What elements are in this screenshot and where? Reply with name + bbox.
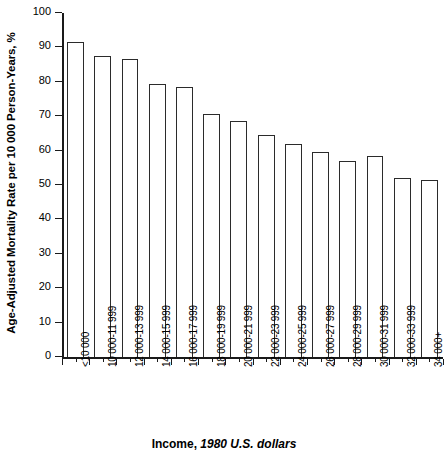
y-axis-tick: 100	[55, 12, 62, 13]
y-axis-tick: 0	[55, 356, 62, 357]
y-axis-tick-label: 90	[39, 39, 51, 51]
x-axis-category-label: 32 000-33 999	[406, 305, 417, 367]
x-axis-minor-tick	[293, 359, 294, 362]
x-axis-tick	[62, 359, 63, 365]
x-axis-minor-tick	[321, 359, 322, 362]
x-axis-category-label: 10 000-11 999	[107, 306, 118, 367]
y-axis-tick-label: 50	[39, 177, 51, 189]
x-axis-category-label: 16 000-17 999	[188, 305, 199, 367]
x-axis-category-label: 28 000-29 999	[352, 305, 363, 367]
x-axis-minor-tick	[103, 359, 104, 362]
y-axis-tick: 30	[55, 253, 62, 254]
y-axis-line	[62, 13, 64, 357]
y-axis-tick: 10	[55, 322, 62, 323]
x-axis-minor-tick	[348, 359, 349, 362]
y-axis-title-container: Age-Adjusted Mortality Rate per 10 000 P…	[0, 0, 22, 366]
y-axis-tick-label: 80	[39, 74, 51, 86]
y-axis-title: Age-Adjusted Mortality Rate per 10 000 P…	[5, 32, 17, 333]
y-axis-tick-label: 60	[39, 143, 51, 155]
y-axis-tick: 50	[55, 184, 62, 185]
x-axis-minor-tick	[184, 359, 185, 362]
x-axis-minor-tick	[429, 359, 430, 362]
x-axis-minor-tick	[157, 359, 158, 362]
bar	[421, 180, 438, 357]
y-axis-tick: 20	[55, 287, 62, 288]
y-axis-tick: 60	[55, 150, 62, 151]
bar	[67, 42, 84, 357]
x-axis-minor-tick	[375, 359, 376, 362]
y-axis-tick-label: 30	[39, 246, 51, 258]
x-axis-category-label: 24 000-25 999	[297, 305, 308, 367]
x-axis-minor-tick	[239, 359, 240, 362]
y-axis-tick-label: 20	[39, 280, 51, 292]
x-axis-category-label: 30 000-31 999	[379, 305, 390, 367]
y-axis-tick-label: 10	[39, 315, 51, 327]
x-axis-category-label: 34 000+	[433, 332, 444, 367]
y-axis-tick-label: 0	[45, 349, 51, 361]
y-axis-tick: 40	[55, 218, 62, 219]
y-axis-tick-label: 100	[33, 5, 51, 17]
chart-figure: Age-Adjusted Mortality Rate per 10 000 P…	[0, 0, 448, 463]
x-axis-category-label: 18 000-19 999	[216, 305, 227, 367]
y-axis-tick-label: 40	[39, 211, 51, 223]
x-axis-category-label: 12 000-13 999	[134, 305, 145, 367]
x-axis-minor-tick	[130, 359, 131, 362]
x-axis-category-label: 20 000-21 999	[243, 305, 254, 367]
x-axis-minor-tick	[402, 359, 403, 362]
y-axis-tick-label: 70	[39, 108, 51, 120]
x-axis-category-label: 26 000-27 999	[325, 305, 336, 367]
x-axis-minor-tick	[76, 359, 77, 362]
y-axis-tick: 90	[55, 46, 62, 47]
x-axis-minor-tick	[266, 359, 267, 362]
x-axis-category-label: 22 000-23 999	[270, 305, 281, 367]
x-axis-title-italic: 1980 U.S. dollars	[200, 437, 296, 451]
y-axis-tick: 80	[55, 81, 62, 82]
y-axis-tick: 70	[55, 115, 62, 116]
x-axis-category-label: <10 000	[80, 332, 91, 367]
x-axis-category-label: 14 000-15 999	[161, 305, 172, 367]
x-axis-title-plain: Income,	[152, 437, 197, 451]
x-axis-title: Income, 1980 U.S. dollars	[0, 437, 448, 451]
x-axis-minor-tick	[212, 359, 213, 362]
